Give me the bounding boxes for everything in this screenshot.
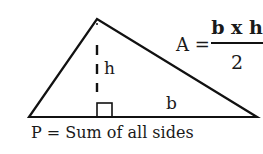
apex-dot [96,23,98,25]
area-formula-denominator: 2 [231,51,243,73]
triangle-diagram: h b A = b x h 2 P = Sum of all sides [0,0,263,154]
area-formula-numerator: b x h [211,16,263,38]
right-angle-marker [97,103,112,117]
base-label: b [166,93,177,113]
height-label: h [104,58,115,78]
area-formula-lhs: A = [175,34,210,55]
perimeter-formula: P = Sum of all sides [31,123,194,142]
